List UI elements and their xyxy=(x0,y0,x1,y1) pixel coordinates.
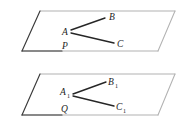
label-point-C: C xyxy=(117,39,124,49)
lower-plane-group xyxy=(22,74,175,115)
diagram-canvas: A B C P A 1 B 1 C 1 Q xyxy=(0,0,184,131)
label-point-A1-letter: A xyxy=(59,87,66,97)
label-point-C1-letter: C xyxy=(116,102,123,112)
label-point-B: B xyxy=(109,12,115,22)
label-point-C1-subscript: 1 xyxy=(123,108,126,114)
upper-plane-group xyxy=(22,11,175,51)
label-point-B1-letter: B xyxy=(108,77,114,87)
label-point-A1-subscript: 1 xyxy=(67,93,70,99)
label-point-A: A xyxy=(61,27,68,37)
label-point-Q: Q xyxy=(61,104,68,114)
lower-plane-surface xyxy=(22,74,175,115)
upper-plane-surface xyxy=(22,11,175,51)
label-point-P: P xyxy=(61,41,68,51)
label-point-B1-subscript: 1 xyxy=(115,83,118,89)
geometry-figure: A B C P A 1 B 1 C 1 Q xyxy=(0,0,184,131)
